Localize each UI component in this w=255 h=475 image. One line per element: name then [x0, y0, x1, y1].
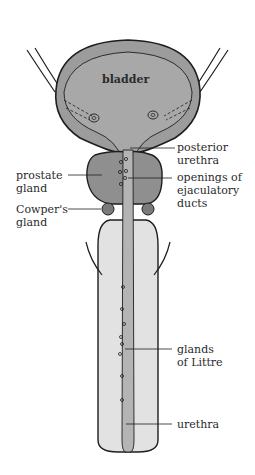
label-openings-3: ducts — [177, 197, 207, 210]
label-openings-2: ejaculatory — [177, 184, 239, 197]
label-prostate-1: prostate — [16, 169, 62, 182]
label-posterior-urethra-2: urethra — [177, 154, 219, 167]
urethra — [122, 150, 134, 452]
label-cowpers-2: gland — [16, 216, 47, 229]
label-littre-2: of Littre — [177, 356, 223, 369]
label-cowpers-1: Cowper's — [16, 203, 68, 216]
label-prostate-2: gland — [16, 182, 47, 195]
urethra-anatomy-diagram — [0, 0, 255, 475]
label-openings-1: openings of — [177, 171, 242, 184]
label-urethra: urethra — [177, 418, 219, 431]
label-bladder: bladder — [102, 73, 149, 86]
label-posterior-urethra-1: posterior — [177, 141, 228, 154]
label-littre-1: glands — [177, 343, 214, 356]
